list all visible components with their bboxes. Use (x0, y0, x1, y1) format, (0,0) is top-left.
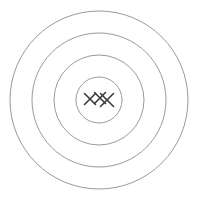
target-diagram (0, 0, 198, 200)
target-canvas (0, 0, 198, 200)
